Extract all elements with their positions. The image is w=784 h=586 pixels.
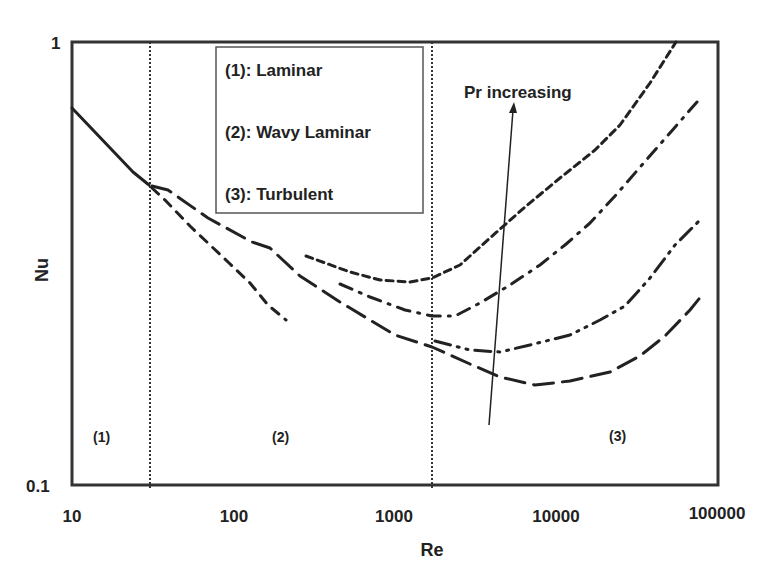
x-tick-10: 10	[63, 507, 82, 526]
y-tick-1: 1	[51, 34, 60, 53]
x-tick-100: 100	[220, 507, 248, 526]
series-long-dash-lowest-pr	[152, 186, 703, 385]
x-tick-1000: 1000	[375, 507, 413, 526]
arrowhead-icon	[509, 102, 517, 113]
x-axis-title: Re	[420, 540, 443, 560]
chart: (1): Laminar (2): Wavy Laminar (3): Turb…	[0, 0, 784, 586]
x-tick-100000: 100000	[689, 504, 746, 523]
pr-increasing-arrow	[489, 102, 517, 425]
series-laminar	[72, 108, 149, 185]
legend-item-turbulent: (3): Turbulent	[225, 185, 334, 204]
legend-item-laminar: (1): Laminar	[225, 61, 323, 80]
region-label-3: (3)	[609, 428, 626, 444]
legend-item-wavy-laminar: (2): Wavy Laminar	[225, 123, 371, 142]
series-dash-dot-dot	[435, 220, 700, 352]
y-tick-0-1: 0.1	[26, 477, 50, 496]
legend: (1): Laminar (2): Wavy Laminar (3): Turb…	[216, 47, 423, 213]
region-label-2: (2)	[272, 429, 289, 445]
x-tick-10000: 10000	[532, 507, 579, 526]
region-label-1: (1)	[93, 429, 110, 445]
annotation-pr-increasing: Pr increasing	[464, 83, 572, 102]
y-axis-title: Nu	[32, 258, 52, 282]
